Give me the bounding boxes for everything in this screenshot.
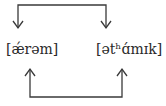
- bottom-bracket: [25, 69, 127, 97]
- top-bracket: [13, 5, 111, 28]
- word-left: [ǽrəm]: [6, 42, 58, 56]
- word-right: [ətʰɑ́mɪk]: [96, 42, 162, 56]
